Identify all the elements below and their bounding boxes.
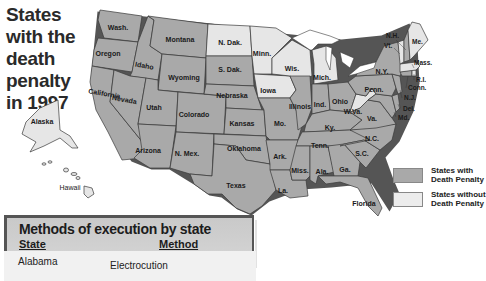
label-alaska: Alaska — [31, 118, 54, 125]
label-kansas: Kansas — [230, 120, 255, 127]
label-va: Va. — [367, 115, 377, 122]
label-me: Me. — [412, 38, 423, 45]
label-sc: S.C. — [355, 150, 369, 157]
legend-item-without: States without Death Penalty — [393, 190, 486, 208]
label-oklahoma: Oklahoma — [227, 145, 261, 152]
state-alaska — [22, 100, 78, 152]
label-mo: Mo. — [274, 120, 286, 127]
label-florida: Florida — [352, 200, 375, 207]
legend-label-without: States without Death Penalty — [431, 190, 486, 208]
cell-method: Electrocution — [110, 260, 168, 271]
label-wash: Wash. — [108, 24, 128, 31]
swatch-without — [393, 192, 423, 207]
label-nh: N.H. — [386, 32, 399, 39]
label-wva: W.Va. — [344, 108, 362, 115]
label-tenn: Tenn. — [311, 142, 329, 149]
label-ark: Ark. — [273, 153, 287, 160]
label-ny: N.Y. — [376, 68, 389, 75]
cell-state: Alabama — [18, 256, 57, 267]
label-hawaii: Hawaii — [59, 184, 80, 191]
label-la: La. — [278, 187, 288, 194]
label-penn: Penn. — [364, 86, 383, 93]
label-ind: Ind. — [314, 101, 326, 108]
methods-table: Methods of execution by state State Meth… — [4, 215, 254, 275]
label-vt: Vt. — [384, 42, 393, 49]
methods-title: Methods of execution by state — [19, 221, 211, 237]
label-ky: Ky. — [325, 124, 335, 132]
label-mass: Mass. — [414, 59, 432, 66]
table-row: Alabama Electrocution — [4, 251, 256, 281]
label-utah: Utah — [146, 104, 162, 111]
label-montana: Montana — [166, 36, 195, 43]
label-colorado: Colorado — [179, 111, 210, 118]
label-arizona: Arizona — [135, 147, 161, 154]
label-ndak: N. Dak. — [218, 39, 242, 46]
state-hawaii — [42, 161, 94, 198]
label-sdak: S. Dak. — [218, 66, 241, 73]
label-minn: Minn. — [253, 50, 271, 57]
label-del: Del. — [403, 105, 415, 112]
label-illinois: Illinois — [289, 103, 311, 110]
label-ohio: Ohio — [332, 98, 348, 105]
state-iowa — [254, 74, 296, 98]
header-method: Method — [159, 238, 198, 250]
label-ala: Ala. — [316, 168, 329, 175]
label-ga: Ga. — [339, 166, 350, 173]
label-wyoming: Wyoming — [168, 74, 199, 82]
label-ri: R.I. — [416, 76, 426, 83]
label-miss: Miss. — [291, 167, 309, 174]
legend-label-with: States with Death Penalty — [431, 166, 486, 184]
label-md: Md. — [398, 114, 409, 121]
swatch-with — [393, 168, 423, 183]
label-conn: Conn. — [408, 84, 427, 91]
legend-item-with: States with Death Penalty — [393, 166, 486, 184]
label-nebraska: Nebraska — [216, 92, 248, 99]
state-ind — [312, 84, 330, 114]
label-iowa: Iowa — [260, 87, 276, 94]
header-state: State — [19, 238, 46, 250]
label-nc: N.C. — [365, 135, 379, 142]
label-wis: Wis. — [285, 65, 299, 72]
label-texas: Texas — [226, 182, 245, 189]
label-nj: N.J. — [404, 94, 416, 101]
label-mich: Mich. — [313, 74, 331, 81]
label-nmex: N. Mex. — [175, 150, 200, 157]
label-oregon: Oregon — [96, 50, 121, 58]
